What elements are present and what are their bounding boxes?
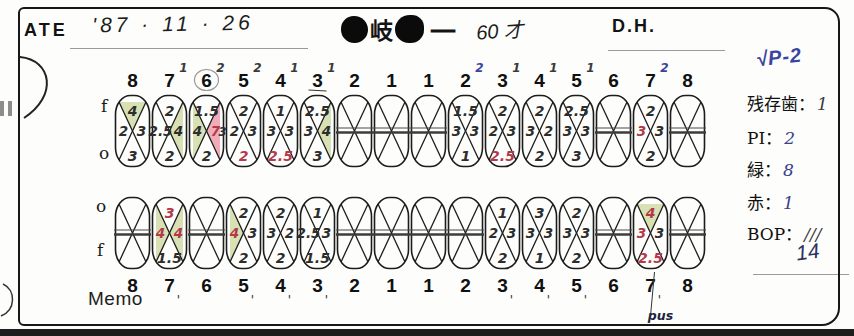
svg-text:2: 2 <box>646 148 656 164</box>
svg-text:1.5: 1.5 <box>453 103 478 119</box>
facial-label-upper: f <box>101 96 107 116</box>
svg-text:7: 7 <box>164 275 175 296</box>
svg-text:2.5: 2.5 <box>149 123 173 139</box>
svg-text:3: 3 <box>655 225 664 241</box>
svg-text:4: 4 <box>155 225 165 241</box>
svg-text:2: 2 <box>165 148 175 164</box>
date-label: ATE <box>24 20 68 41</box>
green-count-row: 緑：8 <box>747 156 794 181</box>
lower-arch-chart: 83441.57'624325'23224'12.531.53'21121232… <box>112 192 710 332</box>
svg-text:2: 2 <box>535 103 545 119</box>
svg-text:3: 3 <box>526 123 535 139</box>
pi-label: PI： <box>747 128 782 148</box>
svg-text:2: 2 <box>646 103 656 119</box>
svg-text:3: 3 <box>470 123 479 139</box>
svg-text:': ' <box>510 293 513 307</box>
svg-text:3: 3 <box>267 225 276 241</box>
tooth-lower-13-6: 6 <box>595 198 632 297</box>
red-count-label: 赤： <box>747 193 781 213</box>
svg-text:3: 3 <box>248 225 257 241</box>
svg-text:2: 2 <box>475 61 483 75</box>
svg-text:2: 2 <box>253 61 261 75</box>
redaction-blob <box>341 16 368 43</box>
tooth-lower-3-5: 24325' <box>227 198 261 308</box>
tooth-upper-11-4: 232241 <box>523 61 558 167</box>
plaque-score-note: √P-2 <box>755 44 803 72</box>
svg-text:3: 3 <box>655 123 664 139</box>
svg-text:5: 5 <box>571 275 582 296</box>
tooth-upper-0-8: 42338 <box>116 70 150 167</box>
svg-text:2: 2 <box>276 205 286 221</box>
panel-underline <box>753 274 849 275</box>
svg-text:1: 1 <box>313 205 323 221</box>
svg-text:1: 1 <box>327 61 335 75</box>
svg-text:8: 8 <box>682 275 693 296</box>
green-count-label: 緑： <box>747 160 781 180</box>
svg-text:3: 3 <box>165 205 175 221</box>
tooth-lower-7-1: 1 <box>373 198 410 297</box>
svg-text:': ' <box>658 293 661 307</box>
svg-text:1.5: 1.5 <box>157 250 182 266</box>
svg-text:1.5: 1.5 <box>305 250 330 266</box>
svg-text:4: 4 <box>534 275 545 296</box>
patient-name-tail: 一 <box>430 11 456 48</box>
scan-edge <box>0 329 854 336</box>
svg-text:3: 3 <box>312 70 323 91</box>
tooth-lower-9-2: 2 <box>447 198 484 297</box>
svg-text:2: 2 <box>239 148 249 164</box>
svg-text:1: 1 <box>423 275 434 296</box>
svg-text:4: 4 <box>534 70 545 91</box>
upper-arch-chart: 4233822.542711.54732622232521332.5412.53… <box>112 58 710 176</box>
tooth-upper-3-5: 223252 <box>227 61 262 167</box>
date-underline <box>70 48 308 49</box>
svg-text:1: 1 <box>549 61 557 75</box>
svg-text:1: 1 <box>179 61 187 75</box>
svg-text:pus: pus <box>647 308 673 323</box>
svg-text:5: 5 <box>571 70 582 91</box>
tooth-lower-0-8: 8 <box>114 198 151 297</box>
svg-text:1: 1 <box>512 61 520 75</box>
tooth-lower-12-5: 23325' <box>560 198 594 308</box>
svg-text:': ' <box>177 293 180 307</box>
svg-text:4: 4 <box>127 103 138 119</box>
oral-label-upper: o <box>99 143 109 163</box>
svg-text:2: 2 <box>498 103 508 119</box>
svg-text:7: 7 <box>164 70 175 91</box>
svg-text:4: 4 <box>645 205 656 221</box>
tooth-lower-2-6: 6 <box>188 198 225 297</box>
svg-text:3: 3 <box>497 70 508 91</box>
svg-text:2: 2 <box>239 205 249 221</box>
svg-text:3: 3 <box>563 123 572 139</box>
svg-text:2.5: 2.5 <box>268 148 293 164</box>
svg-text:5: 5 <box>238 70 249 91</box>
svg-text:3: 3 <box>128 148 138 164</box>
svg-text:1: 1 <box>290 61 298 75</box>
tooth-lower-1-7: 3441.57' <box>153 198 187 308</box>
svg-text:8: 8 <box>682 70 693 91</box>
tooth-lower-4-4: 23224' <box>264 198 298 308</box>
svg-text:2: 2 <box>572 205 582 221</box>
svg-text:2: 2 <box>119 123 128 139</box>
svg-text:3: 3 <box>137 123 146 139</box>
tooth-upper-2-6: 1.5473262 <box>190 61 227 167</box>
patient-age: 60 才 <box>475 13 525 45</box>
dh-label: D.H. <box>612 16 656 37</box>
bop-extra-value: 14 <box>794 238 820 265</box>
svg-text:4: 4 <box>275 275 286 296</box>
svg-text:1: 1 <box>461 148 471 164</box>
svg-text:2: 2 <box>202 148 212 164</box>
svg-text:2: 2 <box>489 123 498 139</box>
svg-text:2: 2 <box>460 275 471 296</box>
svg-text:2: 2 <box>460 70 471 91</box>
svg-text:2: 2 <box>276 250 286 266</box>
svg-text:3: 3 <box>304 123 313 139</box>
pi-value: 2 <box>784 128 795 148</box>
svg-text:2: 2 <box>285 225 294 241</box>
red-count-value: 1 <box>783 193 794 213</box>
svg-text:3: 3 <box>452 123 461 139</box>
svg-text:6: 6 <box>201 275 212 296</box>
tooth-upper-6-2: 2 <box>336 70 373 167</box>
svg-text:2: 2 <box>349 275 360 296</box>
oral-label-lower: o <box>96 196 106 216</box>
svg-text:3: 3 <box>572 148 582 164</box>
